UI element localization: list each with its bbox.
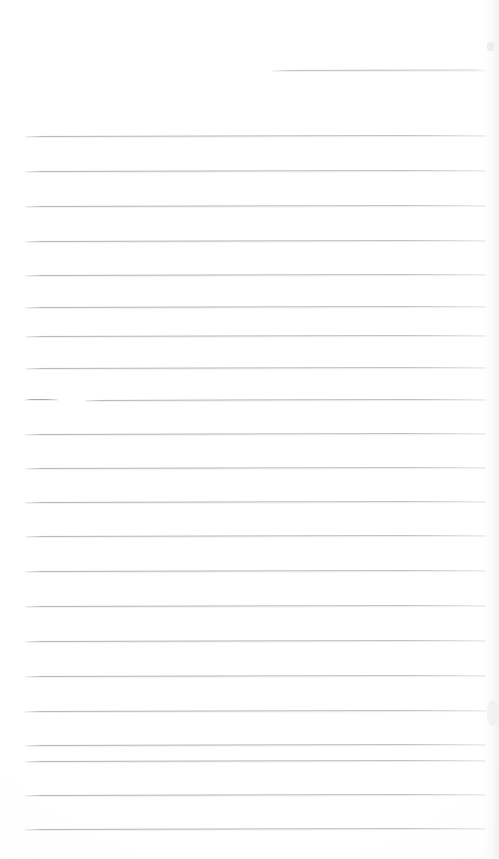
rule-line <box>25 828 486 830</box>
scanned-page <box>0 0 499 859</box>
rule-line <box>25 744 486 746</box>
rule-line <box>25 135 486 137</box>
rule-line <box>25 675 486 677</box>
rule-line <box>25 467 486 469</box>
rule-line <box>25 240 486 242</box>
rule-line <box>272 70 486 71</box>
rule-line <box>25 399 58 400</box>
rule-line <box>25 501 486 503</box>
rule-line <box>85 399 486 401</box>
rule-line <box>25 570 486 572</box>
rule-line <box>25 710 486 712</box>
ruled-lines-layer <box>0 0 499 859</box>
rule-line <box>25 535 486 537</box>
rule-line <box>25 306 486 308</box>
rule-line <box>25 760 486 762</box>
rule-line <box>25 274 486 276</box>
rule-line <box>25 794 486 796</box>
rule-line <box>25 640 486 642</box>
rule-line <box>25 433 486 435</box>
rule-line <box>25 367 486 369</box>
rule-line <box>25 335 486 337</box>
rule-line <box>25 170 486 172</box>
rule-line <box>25 205 486 207</box>
rule-line <box>25 605 486 607</box>
